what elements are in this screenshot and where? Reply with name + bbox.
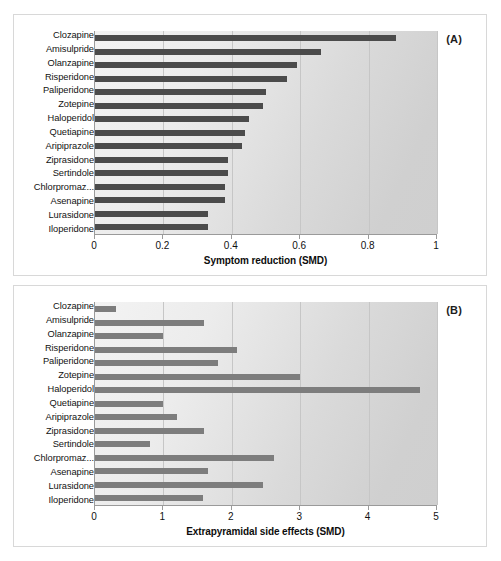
bar	[95, 347, 237, 353]
x-axis-tick-label: 5	[433, 511, 439, 522]
panel-letter-a: (A)	[446, 33, 462, 45]
bar-row	[95, 197, 437, 203]
x-axis-tick	[162, 235, 163, 239]
bar-row	[95, 143, 437, 149]
bar	[95, 224, 208, 230]
bar	[95, 197, 225, 203]
bar	[95, 495, 203, 501]
x-axis-tick	[94, 506, 95, 510]
x-axis-tick-label: 4	[365, 511, 371, 522]
y-axis-label: Haloperidol	[20, 114, 94, 123]
x-axis-tick-label: 2	[228, 511, 234, 522]
chart-panel-a: (A) ClozapineAmisulprideOlanzapineRisper…	[13, 14, 487, 276]
plot-area-b	[94, 302, 437, 506]
y-axis-label: Lurasidone	[20, 211, 94, 220]
bar-row	[95, 401, 437, 407]
bar-series-a	[95, 31, 437, 234]
x-axis-tick	[368, 235, 369, 239]
y-axis-label: Quetiapine	[20, 399, 94, 408]
y-axis-label: Amisulpride	[20, 45, 94, 54]
y-axis-label: Asenapine	[20, 197, 94, 206]
bar	[95, 35, 396, 41]
bar-row	[95, 157, 437, 163]
y-axis-label: Quetiapine	[20, 128, 94, 137]
x-axis-tick	[299, 506, 300, 510]
x-axis-tick-label: 0.6	[292, 240, 306, 251]
bar-row	[95, 360, 437, 366]
y-axis-label: Zotepine	[20, 100, 94, 109]
bar-row	[95, 387, 437, 393]
y-axis-label: Olanzapine	[20, 59, 94, 68]
bar	[95, 387, 420, 393]
bar-row	[95, 495, 437, 501]
chart-panel-b: (B) ClozapineAmisulprideOlanzapineRisper…	[13, 285, 487, 547]
bar	[95, 455, 274, 461]
figure-page: (A) ClozapineAmisulprideOlanzapineRisper…	[0, 0, 501, 561]
x-axis-tick	[231, 235, 232, 239]
bar	[95, 103, 263, 109]
bar-row	[95, 482, 437, 488]
y-axis-labels-b: ClozapineAmisulprideOlanzapineRisperidon…	[20, 302, 94, 505]
bar-row	[95, 211, 437, 217]
bar	[95, 170, 228, 176]
y-axis-label: Iloperidone	[20, 496, 94, 505]
bar	[95, 89, 266, 95]
y-axis-label: Lurasidone	[20, 482, 94, 491]
bar-row	[95, 347, 437, 353]
bar-row	[95, 428, 437, 434]
y-axis-label: Haloperidol	[20, 385, 94, 394]
x-axis-tick	[231, 506, 232, 510]
bar-row	[95, 184, 437, 190]
bar	[95, 320, 204, 326]
x-axis-tick	[162, 506, 163, 510]
y-axis-label: Clozapine	[20, 31, 94, 40]
x-axis-tick-label: 1	[433, 240, 439, 251]
bar-row	[95, 320, 437, 326]
bar-row	[95, 49, 437, 55]
bar-series-b	[95, 302, 437, 505]
y-axis-label: Paliperidone	[20, 357, 94, 366]
bar	[95, 428, 204, 434]
bar-row	[95, 374, 437, 380]
x-axis-tick	[94, 235, 95, 239]
bar	[95, 157, 228, 163]
x-axis-title-b: Extrapyramidal side effects (SMD)	[94, 526, 437, 537]
bar-row	[95, 333, 437, 339]
gridline	[437, 31, 438, 234]
x-axis-tick	[368, 506, 369, 510]
chart-b: (B) ClozapineAmisulprideOlanzapineRisper…	[14, 286, 486, 546]
bar-row	[95, 103, 437, 109]
bar-row	[95, 89, 437, 95]
bar-row	[95, 76, 437, 82]
bar	[95, 76, 287, 82]
bar	[95, 401, 163, 407]
y-axis-label: Iloperidone	[20, 225, 94, 234]
bar	[95, 62, 297, 68]
bar	[95, 143, 242, 149]
bar	[95, 130, 245, 136]
x-axis-title-a: Symptom reduction (SMD)	[94, 255, 437, 266]
bar-row	[95, 35, 437, 41]
bar	[95, 414, 177, 420]
y-axis-label: Chlorpromaz...	[20, 183, 94, 192]
panel-letter-b: (B)	[446, 304, 462, 316]
y-axis-label: Clozapine	[20, 302, 94, 311]
x-axis-tick-label: 0	[91, 240, 97, 251]
x-axis-tick-label: 0.2	[155, 240, 169, 251]
bar-row	[95, 306, 437, 312]
y-axis-label: Asenapine	[20, 468, 94, 477]
gridline	[437, 302, 438, 505]
y-axis-label: Risperidone	[20, 73, 94, 82]
x-axis-tick	[436, 235, 437, 239]
y-axis-label: Chlorpromaz...	[20, 454, 94, 463]
bar-row	[95, 468, 437, 474]
y-axis-labels-a: ClozapineAmisulprideOlanzapineRisperidon…	[20, 31, 94, 234]
bar-row	[95, 414, 437, 420]
y-axis-label: Aripiprazole	[20, 142, 94, 151]
y-axis-label: Sertindole	[20, 440, 94, 449]
y-axis-label: Paliperidone	[20, 86, 94, 95]
x-axis-ticks-a: 00.20.40.60.81	[94, 235, 437, 251]
y-axis-label: Zotepine	[20, 371, 94, 380]
bar	[95, 49, 321, 55]
chart-a: (A) ClozapineAmisulprideOlanzapineRisper…	[14, 15, 486, 275]
